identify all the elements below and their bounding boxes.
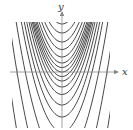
parabola-curve bbox=[0, 0, 133, 95]
parabola-family-plot: x y bbox=[0, 0, 133, 130]
parabola-curve bbox=[0, 0, 133, 130]
parabola-curve bbox=[0, 0, 133, 130]
parabola-curve bbox=[0, 0, 133, 42]
parabola-curve bbox=[0, 0, 133, 130]
curves-group bbox=[0, 0, 133, 130]
parabola-curve bbox=[0, 0, 133, 68]
x-axis-label: x bbox=[122, 66, 128, 77]
y-axis-label: y bbox=[57, 1, 64, 12]
parabola-curve bbox=[0, 0, 133, 24]
parabola-curve bbox=[0, 0, 133, 33]
parabola-curve bbox=[0, 0, 133, 117]
parabola-curve bbox=[0, 0, 133, 130]
parabola-curve bbox=[0, 0, 133, 77]
